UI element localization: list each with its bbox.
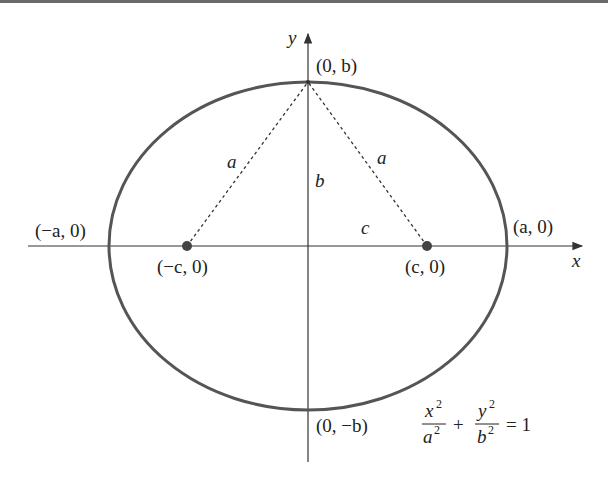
segment-label-left-a: a (227, 151, 237, 172)
eq-den-b-exp: 2 (488, 423, 494, 437)
segment-label-right-a: a (377, 147, 387, 168)
eq-num-y: y (476, 400, 487, 421)
eq-den-a-exp: 2 (434, 423, 440, 437)
focus-right-label: (c, 0) (405, 256, 445, 278)
eq-plus: + (453, 414, 464, 435)
eq-equals-one: = 1 (506, 414, 531, 435)
focus-right-dot (422, 241, 432, 251)
vertex-bottom-label: (0, −b) (316, 415, 368, 437)
vertex-right-label: (a, 0) (513, 216, 553, 238)
eq-num-x-exp: 2 (436, 397, 442, 411)
segment-label-c: c (361, 217, 370, 238)
vertex-top-label: (0, b) (316, 55, 357, 77)
focus-left-dot (182, 241, 192, 251)
vertex-left-label: (−a, 0) (35, 220, 86, 242)
vertex-top-dot (306, 80, 310, 84)
eq-num-x: x (424, 400, 434, 421)
segment-label-b: b (315, 170, 325, 191)
eq-num-y-exp: 2 (489, 397, 495, 411)
ellipse-equation: x 2 a 2 + y 2 b 2 = 1 (422, 397, 531, 447)
eq-den-a: a (423, 426, 433, 447)
eq-den-b: b (477, 426, 487, 447)
focus-left-label: (−c, 0) (157, 256, 208, 278)
ellipse-diagram: y x (0, b) (0, −b) (−a, 0) (a, 0) (−c, 0… (0, 0, 608, 479)
y-axis-label: y (286, 27, 297, 48)
x-axis-label: x (571, 250, 581, 271)
